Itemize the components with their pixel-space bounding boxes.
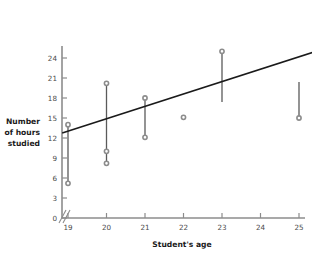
x-tick-label: 19 <box>63 223 73 232</box>
y-tick-label: 24 <box>48 54 58 63</box>
x-tick-label: 20 <box>102 223 112 232</box>
data-point <box>66 181 70 185</box>
data-point <box>297 116 301 120</box>
x-tick-label: 21 <box>140 223 149 232</box>
x-tick-label: 24 <box>256 223 266 232</box>
y-tick-label: 21 <box>48 74 57 83</box>
y-axis-title-line: Number <box>6 117 40 126</box>
data-point <box>104 81 108 85</box>
data-point <box>104 161 108 165</box>
data-point <box>66 123 70 127</box>
x-tick-label: 22 <box>179 223 188 232</box>
y-tick-label: 15 <box>48 114 57 123</box>
scatter-plot: 03691215182124 19202122232425 Student's … <box>0 0 312 254</box>
x-axis-title: Student's age <box>152 240 211 249</box>
y-tick-label: 18 <box>48 94 58 103</box>
data-point <box>143 135 147 139</box>
y-tick-label: 6 <box>52 174 57 183</box>
chart-container: 03691215182124 19202122232425 Student's … <box>0 0 312 254</box>
y-axis-title: Numberof hoursstudied <box>5 117 41 148</box>
y-tick-label: 0 <box>52 214 57 223</box>
x-tick-label: 23 <box>217 223 226 232</box>
y-tick-label: 9 <box>52 154 57 163</box>
data-point <box>143 96 147 100</box>
data-point <box>104 149 108 153</box>
data-point <box>220 49 224 53</box>
y-axis-title-line: studied <box>8 139 40 148</box>
y-tick-label: 3 <box>52 194 57 203</box>
y-axis-title-line: of hours <box>5 128 41 137</box>
y-tick-label: 12 <box>48 134 57 143</box>
plot-background <box>0 0 312 254</box>
data-point <box>181 115 185 119</box>
x-tick-label: 25 <box>294 223 303 232</box>
